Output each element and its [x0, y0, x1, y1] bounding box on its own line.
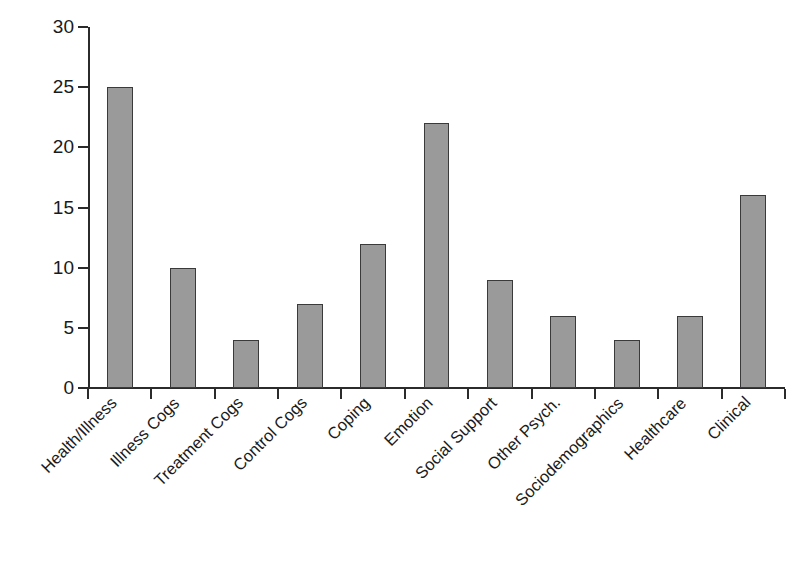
x-axis-label: Sociodemographics — [512, 394, 626, 508]
bar — [424, 123, 450, 388]
bar — [677, 316, 703, 388]
x-axis-tick — [150, 389, 152, 399]
x-axis-label: Health/Illness — [38, 394, 120, 476]
x-axis-label: Clinical — [704, 394, 754, 444]
y-axis-tick — [78, 207, 88, 209]
bar — [233, 340, 259, 388]
x-axis-tick — [784, 389, 786, 399]
x-axis-label: Coping — [324, 394, 373, 443]
y-axis-tick-label: 25 — [18, 77, 74, 96]
x-axis-tick — [531, 389, 533, 399]
x-axis-tick — [277, 389, 279, 399]
x-axis-tick — [594, 389, 596, 399]
bar — [297, 304, 323, 388]
y-axis-tick — [78, 26, 88, 28]
x-axis-tick — [87, 389, 89, 399]
x-axis-tick — [214, 389, 216, 399]
bar — [550, 316, 576, 388]
y-axis-tick — [78, 86, 88, 88]
x-axis-tick — [467, 389, 469, 399]
x-axis-tick — [404, 389, 406, 399]
plot-area — [88, 27, 785, 388]
bar — [360, 244, 386, 388]
y-axis-tick-label: 30 — [18, 17, 74, 36]
bar-chart: 051015202530 Health/IllnessIllness CogsT… — [0, 0, 806, 571]
y-axis-tick-label: 5 — [18, 318, 74, 337]
y-axis-tick-label: 10 — [18, 258, 74, 277]
bar — [614, 340, 640, 388]
x-axis-label: Healthcare — [621, 394, 689, 462]
y-axis-tick-label: 15 — [18, 198, 74, 217]
x-axis-tick — [721, 389, 723, 399]
bar — [740, 195, 766, 388]
x-axis-tick — [340, 389, 342, 399]
bar — [170, 268, 196, 388]
x-axis-label: Emotion — [381, 394, 436, 449]
bar — [107, 87, 133, 388]
x-axis-tick — [657, 389, 659, 399]
y-axis-tick-label: 20 — [18, 137, 74, 156]
bar — [487, 280, 513, 388]
y-axis-tick — [78, 327, 88, 329]
y-axis-tick — [78, 146, 88, 148]
y-axis-tick — [78, 267, 88, 269]
y-axis-tick-label: 0 — [18, 378, 74, 397]
